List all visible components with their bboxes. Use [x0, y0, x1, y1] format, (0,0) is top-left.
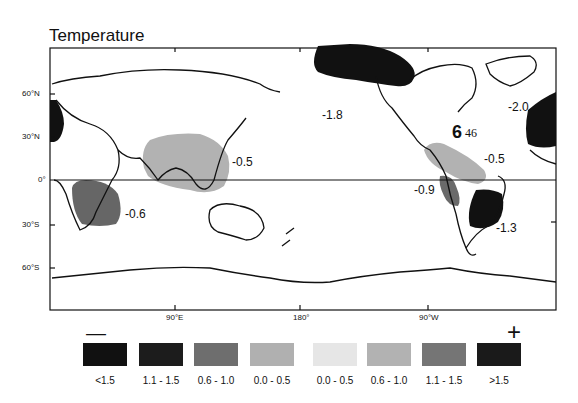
hurricane-icon: 6	[452, 122, 462, 143]
legend-swatch-2	[194, 343, 238, 366]
anomaly-label-south-asia: -0.5	[232, 155, 253, 169]
legend-plus-sign: +	[507, 318, 521, 346]
legend-swatch-0	[83, 343, 127, 366]
legend-label-5: 0.6 - 1.0	[359, 375, 419, 386]
legend-label-6: 1.1 - 1.5	[414, 375, 474, 386]
anomaly-label-north-pacific: -1.8	[322, 108, 343, 122]
anomaly-label-east-south-america: -1.3	[496, 221, 517, 235]
legend-label-4: 0.0 - 0.5	[305, 375, 365, 386]
legend-swatch-1	[139, 343, 183, 366]
anomaly-label-southern-africa: -0.6	[125, 207, 146, 221]
anomaly-label-north-atlantic: -2.0	[508, 100, 529, 114]
legend-swatch-5	[367, 343, 411, 366]
ytick-60s: 60°S	[22, 263, 39, 272]
ytick-30n: 30°N	[22, 132, 40, 141]
legend-label-0: <1.5	[75, 375, 135, 386]
region-north-pacific	[314, 44, 415, 86]
region-southern-africa	[72, 180, 121, 226]
ytick-60n: 60°N	[22, 89, 40, 98]
legend-label-3: 0.0 - 0.5	[242, 375, 302, 386]
xtick-180: 180°	[293, 313, 310, 322]
legend-swatch-4	[313, 343, 357, 366]
ytick-0: 0°	[38, 175, 46, 184]
ytick-30s: 30°S	[22, 220, 39, 229]
xtick-90w: 90°W	[419, 313, 439, 322]
legend-swatch-3	[250, 343, 294, 366]
region-central-america	[424, 143, 486, 184]
xtick-90e: 90°E	[166, 313, 183, 322]
hurricane-label: 46	[465, 126, 477, 141]
legend-label-2: 0.6 - 1.0	[186, 375, 246, 386]
legend-label-1: 1.1 - 1.5	[131, 375, 191, 386]
legend-swatch-7	[477, 343, 521, 366]
anomaly-label-central-america: -0.5	[484, 152, 505, 166]
region-south-asia	[143, 134, 229, 193]
region-north-atlantic	[526, 92, 556, 148]
legend-swatch-6	[422, 343, 466, 366]
legend-label-7: >1.5	[469, 375, 529, 386]
legend-minus-sign: —	[86, 322, 106, 345]
anomaly-label-west-south-america: -0.9	[414, 183, 435, 197]
